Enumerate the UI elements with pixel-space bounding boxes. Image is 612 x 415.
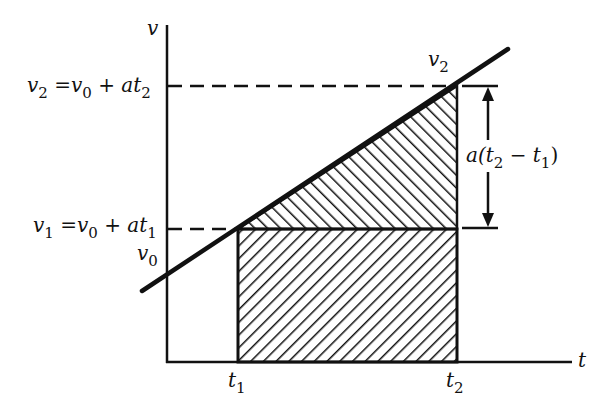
rectangle-area — [238, 229, 457, 362]
y-axis-label: v — [147, 16, 159, 40]
v0-label: v0 — [137, 241, 158, 270]
x-axis-label: t — [578, 348, 587, 372]
v2-point-label: v2 — [428, 47, 449, 76]
v2-equation-label: v2 =v0 + at2 — [27, 73, 151, 102]
t2-label: t2 — [446, 368, 464, 397]
v1-equation-label: v1 =v0 + at1 — [33, 213, 157, 242]
arrow-up-icon — [482, 87, 494, 101]
delta-v-label: a(t2 − t1) — [466, 143, 558, 172]
velocity-time-diagram: v t v2 =v0 + at2 v1 =v0 + at1 v0 v2 t1 t… — [0, 0, 612, 415]
t1-label: t1 — [228, 368, 246, 397]
arrow-down-icon — [482, 213, 494, 227]
